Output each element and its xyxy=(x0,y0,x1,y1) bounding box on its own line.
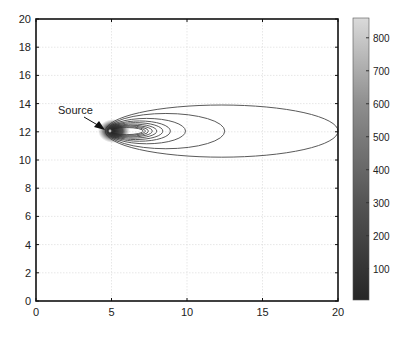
x-tick-label: 0 xyxy=(33,306,39,318)
y-tick-label: 6 xyxy=(25,210,31,222)
colorbar-tick-label: 200 xyxy=(373,231,390,242)
x-tick-label: 5 xyxy=(108,306,114,318)
plot-area xyxy=(36,19,338,301)
x-tick-label: 10 xyxy=(181,306,193,318)
colorbar-ticks: 100200300400500600700800 xyxy=(366,33,390,275)
y-tick-label: 8 xyxy=(25,182,31,194)
y-tick-label: 14 xyxy=(19,98,31,110)
colorbar-tick-label: 100 xyxy=(373,264,390,275)
source-label: Source xyxy=(58,104,93,116)
colorbar-gradient xyxy=(353,18,369,300)
contour-figure: 05101520 02468101214161820 Source 100200… xyxy=(0,0,410,337)
colorbar: 100200300400500600700800 xyxy=(353,18,390,300)
colorbar-tick-label: 600 xyxy=(373,99,390,110)
source-point xyxy=(109,130,112,133)
y-tick-label: 18 xyxy=(19,41,31,53)
y-tick-label: 2 xyxy=(25,267,31,279)
x-tick-label: 15 xyxy=(256,306,268,318)
colorbar-tick-label: 400 xyxy=(373,165,390,176)
y-tick-label: 16 xyxy=(19,69,31,81)
y-tick-label: 4 xyxy=(25,239,31,251)
colorbar-tick-label: 500 xyxy=(373,132,390,143)
x-axis-tick-labels: 05101520 xyxy=(33,306,344,318)
y-tick-label: 12 xyxy=(19,126,31,138)
colorbar-tick-label: 700 xyxy=(373,66,390,77)
y-tick-label: 10 xyxy=(19,154,31,166)
colorbar-tick-label: 800 xyxy=(373,33,390,44)
x-tick-label: 20 xyxy=(332,306,344,318)
y-tick-label: 0 xyxy=(25,295,31,307)
colorbar-tick-label: 300 xyxy=(373,198,390,209)
y-tick-label: 20 xyxy=(19,13,31,25)
y-axis-tick-labels: 02468101214161820 xyxy=(19,13,31,307)
source-concentration-blob xyxy=(98,119,130,143)
